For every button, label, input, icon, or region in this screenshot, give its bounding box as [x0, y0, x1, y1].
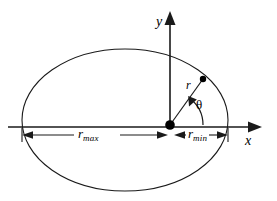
y-axis-arrowhead: [165, 11, 176, 25]
r-min-subscript: min: [193, 133, 207, 143]
r-max-label: rmax: [78, 127, 99, 140]
focus-origin-dot: [165, 120, 175, 130]
x-axis-label: x: [245, 134, 251, 148]
x-axis-arrowhead: [248, 122, 262, 133]
r-max-subscript: max: [83, 133, 99, 143]
diagram-canvas: [0, 0, 277, 201]
r-min-arrowhead-left: [174, 131, 185, 138]
r-max-arrowhead-right: [157, 131, 168, 138]
x-axis: [8, 122, 262, 133]
radius-label: r: [186, 79, 191, 91]
y-axis: [165, 11, 176, 127]
r-min-label: rmin: [188, 127, 207, 140]
orbit-diagram-figure: y x r θ rmax rmin: [0, 0, 277, 201]
orbit-ellipse: [22, 49, 228, 191]
y-axis-label: y: [156, 15, 162, 29]
orbit-point-dot: [200, 76, 206, 82]
theta-label: θ: [196, 98, 202, 111]
